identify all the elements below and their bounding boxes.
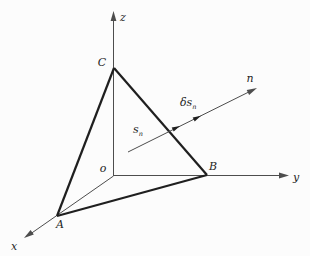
x-axis-label: x bbox=[11, 240, 18, 253]
n-axis-label: n bbox=[246, 72, 253, 85]
delta-s-n-label-base: δs bbox=[180, 96, 193, 109]
s-n-label-subscript: n bbox=[139, 130, 143, 138]
z-axis-label: z bbox=[119, 11, 126, 24]
point-A-label: A bbox=[55, 218, 64, 231]
figure-canvas: z y x n o C B A sn δsn bbox=[0, 0, 310, 256]
background bbox=[0, 0, 310, 256]
tetrahedron-axes-diagram: z y x n o C B A sn δsn bbox=[0, 0, 310, 256]
point-C-label: C bbox=[98, 56, 107, 69]
delta-s-n-label-subscript: n bbox=[192, 103, 196, 111]
origin-label: o bbox=[100, 162, 107, 175]
y-axis-label: y bbox=[292, 171, 300, 184]
point-B-label: B bbox=[208, 160, 217, 173]
